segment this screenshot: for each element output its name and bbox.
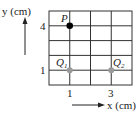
point-q2-label: Q2 — [113, 56, 125, 70]
x-tick-3: 3 — [108, 87, 114, 99]
charge-grid-diagram: y (cm) 4 1 1 3 x (cm) P Q1 Q2 — [0, 0, 140, 118]
y-axis-arrow-icon — [23, 17, 28, 55]
y-tick-4: 4 — [40, 20, 46, 32]
x-axis-label: x (cm) — [107, 99, 136, 112]
point-q2 — [108, 67, 114, 73]
point-q1-label: Q1 — [56, 56, 67, 70]
x-axis-arrow-icon — [72, 103, 105, 108]
x-tick-1: 1 — [67, 87, 73, 99]
y-tick-1: 1 — [40, 64, 46, 76]
y-axis-label: y (cm) — [2, 5, 31, 18]
point-p-label: P — [60, 12, 68, 24]
point-q1 — [67, 67, 73, 73]
